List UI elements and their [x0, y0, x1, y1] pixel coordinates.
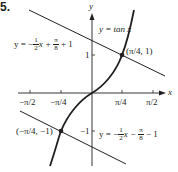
curve-label: y = tan x — [99, 25, 131, 34]
plot-area — [0, 0, 178, 172]
lower-equation-label: y = −12x − π8 − 1 — [99, 127, 158, 142]
y-tick-label: −1 — [80, 127, 90, 136]
x-tick-label: π/4 — [115, 98, 127, 107]
x-tick-label: −π/4 — [50, 98, 67, 107]
eq-prefix: y = − — [99, 129, 118, 139]
x-tick-label: −π/2 — [19, 98, 36, 107]
y-axis-label: y — [89, 2, 93, 11]
point-upper-label: (π/4, 1) — [126, 47, 153, 56]
point-lower — [59, 129, 64, 134]
eq-suffix: + 1 — [59, 39, 73, 49]
x-axis-label: x — [168, 88, 172, 97]
point-upper — [120, 53, 125, 58]
y-axis-arrow-icon — [90, 13, 95, 20]
x-axis-arrow-icon — [159, 91, 166, 96]
eq-suffix: − 1 — [144, 129, 158, 139]
eq-mid: x − — [124, 129, 139, 139]
eq-prefix: y = − — [14, 39, 33, 49]
point-lower-label: (−π/4, −1) — [16, 127, 53, 136]
x-tick-label: π/2 — [146, 98, 158, 107]
eq-mid: x + — [39, 39, 54, 49]
upper-equation-label: y = −12x + π8 + 1 — [14, 37, 73, 52]
y-tick-label: 1 — [85, 51, 90, 60]
